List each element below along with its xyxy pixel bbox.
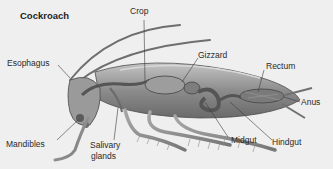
label-midgut: Midgut [231,135,257,145]
label-rectum: Rectum [266,61,295,71]
label-anus: Anus [301,97,320,107]
label-esophagus: Esophagus [7,58,50,68]
diagram-title: Cockroach [20,10,69,21]
label-crop: Crop [130,6,148,16]
label-mandibles: Mandibles [6,139,45,149]
label-salivary-glands-line2: glands [91,151,116,161]
head [68,77,100,128]
cockroach-diagram: Cockroach Crop Esophagus Gizzard Rectum … [0,0,333,169]
label-hindgut: Hindgut [272,137,301,147]
label-gizzard: Gizzard [198,50,227,60]
label-salivary-glands-line1: Salivary [90,140,120,150]
